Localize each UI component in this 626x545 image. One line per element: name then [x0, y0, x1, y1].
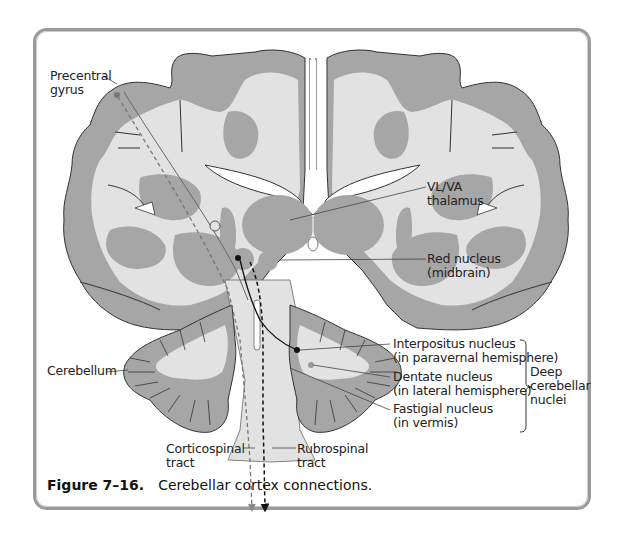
label-dentate-nucleus: Dentate nucleus(in lateral hemisphere) — [393, 370, 531, 398]
precentral-neuron — [114, 92, 120, 98]
right-thalamus — [312, 195, 384, 255]
figure-caption-text: Cerebellar cortex connections. — [158, 477, 372, 493]
figure-number: Figure 7–16. — [47, 477, 144, 493]
label-cerebellum: Cerebellum — [47, 364, 117, 378]
label-fastigial-nucleus: Fastigial nucleus(in vermis) — [393, 402, 493, 430]
label-deep-cerebellar-nuclei: Deepcerebellarnuclei — [530, 365, 591, 407]
third-ventricle — [308, 237, 318, 251]
left-thalamus — [242, 195, 314, 255]
label-red-nucleus: Red nucleus(midbrain) — [427, 252, 501, 280]
label-rubrospinal-tract: Rubrospinaltract — [297, 442, 368, 470]
thalamic-relay — [210, 221, 220, 231]
label-interpositus-nucleus: Interpositus nucleus(in paravernal hemis… — [393, 337, 558, 365]
figure-caption: Figure 7–16.Cerebellar cortex connection… — [47, 477, 372, 493]
label-corticospinal-tract: Corticospinaltract — [166, 442, 245, 470]
cerebellum-right — [289, 305, 401, 432]
right-red-nucleus — [258, 251, 278, 271]
interpositus-dot — [294, 347, 300, 353]
label-precentral-gyrus: Precentralgyrus — [50, 69, 112, 97]
label-vl-va-thalamus: VL/VAthalamus — [427, 180, 484, 208]
